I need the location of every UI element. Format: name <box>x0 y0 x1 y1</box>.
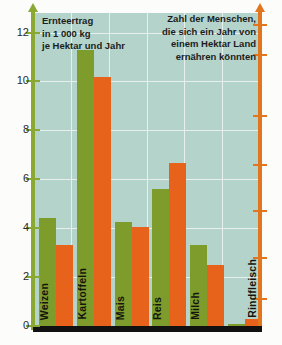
left-axis-tick-label: 2 <box>5 271 29 282</box>
chart-title-right: Zahl der Menschen, die sich ein Jahr von… <box>162 13 256 63</box>
left-y-axis <box>31 10 35 330</box>
category-label: Rindfleisch <box>246 259 258 318</box>
left-axis-tick-label: 12 <box>5 27 29 38</box>
left-axis-tick-label: 0 <box>5 320 29 331</box>
left-axis-tick-label: 8 <box>5 124 29 135</box>
bar-people <box>132 227 149 326</box>
bar-group: Mais <box>115 13 149 326</box>
category-label: Mais <box>114 296 126 320</box>
bar-people <box>169 163 186 326</box>
x-axis-baseline <box>33 326 262 332</box>
category-label: Weizen <box>38 283 50 320</box>
bar-people <box>94 77 111 326</box>
left-axis-tick-label: 4 <box>5 222 29 233</box>
right-axis-tick <box>253 210 267 212</box>
chart-figure: WeizenKartoffelnMaisReisMilchRindfleisch… <box>0 0 282 345</box>
right-axis-tick <box>253 115 267 117</box>
bar-group: Weizen <box>39 13 73 326</box>
left-y-axis-arrow-icon <box>28 3 38 12</box>
category-label: Kartoffeln <box>76 268 88 320</box>
category-label: Milch <box>189 292 201 320</box>
left-axis-tick-label: 6 <box>5 173 29 184</box>
chart-title-left: Ernteertrag in 1 000 kg je Hektar und Ja… <box>42 15 125 53</box>
bar-people <box>207 265 224 326</box>
right-axis-tick <box>253 164 267 166</box>
bar-people <box>56 245 73 326</box>
right-y-axis <box>258 10 262 330</box>
bar-group: Kartoffeln <box>77 13 111 326</box>
category-label: Reis <box>151 297 163 320</box>
left-axis-tick-label: 10 <box>5 75 29 86</box>
right-y-axis-arrow-icon <box>255 3 265 12</box>
